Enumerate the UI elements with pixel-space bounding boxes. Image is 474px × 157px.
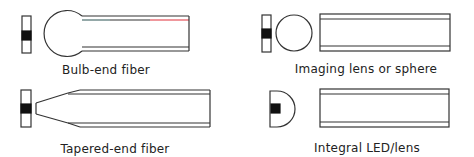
label-integral-led: Integral LED/lens	[314, 141, 420, 155]
panel-imaging-lens	[262, 14, 450, 52]
diagram-svg	[0, 0, 474, 157]
fiber-icon	[68, 90, 210, 127]
light-source-icon	[262, 15, 271, 52]
label-imaging-lens: Imaging lens or sphere	[295, 62, 437, 76]
light-source-icon	[21, 90, 31, 127]
fiber-icon	[320, 14, 450, 51]
fiber-icon	[320, 89, 449, 127]
integral-led-lens-icon	[270, 91, 295, 127]
fiber-icon	[82, 16, 189, 51]
panel-tapered-end	[21, 90, 210, 127]
light-source-icon	[22, 16, 31, 53]
coupling-diagram: Bulb-end fiber Imaging lens or sphere Ta…	[0, 0, 474, 157]
bulb-end-icon	[44, 11, 82, 57]
label-bulb-end: Bulb-end fiber	[62, 63, 150, 77]
tapered-end-icon	[36, 90, 80, 127]
sphere-lens-icon	[276, 15, 312, 51]
panel-integral-led	[270, 89, 449, 127]
panel-bulb-end	[22, 11, 189, 57]
label-tapered-end: Tapered-end fiber	[60, 142, 169, 156]
